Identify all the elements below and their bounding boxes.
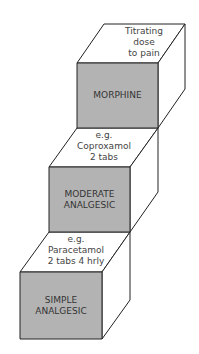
label-line: MODERATE <box>65 189 115 200</box>
label-line: e.g. <box>34 234 118 245</box>
label-line: e.g. <box>62 130 146 141</box>
top-label-moderate: e.g. Coproxamol 2 tabs <box>62 130 146 163</box>
front-label-moderate: MODERATE ANALGESIC <box>49 167 130 232</box>
label-line: to pain <box>104 48 184 59</box>
label-line: SIMPLE <box>45 295 77 306</box>
label-line: Titrating <box>104 26 184 37</box>
label-line: 2 tabs 4 hrly <box>34 256 118 267</box>
label-line: 2 tabs <box>62 152 146 163</box>
label-line: dose <box>104 37 184 48</box>
label-line: MORPHINE <box>93 90 141 101</box>
label-line: Coproxamol <box>62 141 146 152</box>
top-label-simple: e.g. Paracetamol 2 tabs 4 hrly <box>34 234 118 267</box>
front-label-simple: SIMPLE ANALGESIC <box>20 272 102 339</box>
label-line: ANALGESIC <box>35 306 86 317</box>
label-line: Paracetamol <box>34 245 118 256</box>
front-label-morphine: MORPHINE <box>77 63 158 128</box>
top-label-morphine: Titrating dose to pain <box>104 26 184 59</box>
label-line: ANALGESIC <box>64 200 115 211</box>
